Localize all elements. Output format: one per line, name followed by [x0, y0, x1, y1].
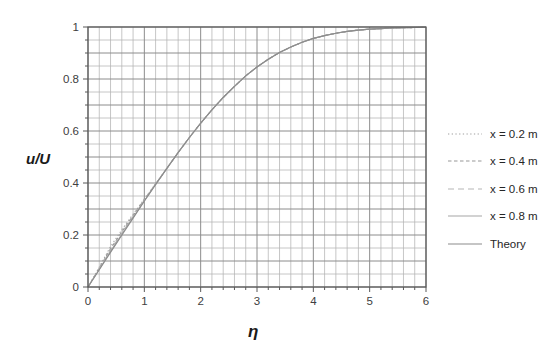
legend-label: x = 0.2 m [490, 128, 538, 140]
y-axis-label: u/U [26, 150, 50, 167]
x-tick-label: 1 [141, 295, 147, 307]
legend-line-sample [448, 129, 482, 139]
legend-line-sample [448, 211, 482, 221]
x-tick-label: 6 [423, 295, 429, 307]
x-axis-label: η [248, 322, 258, 342]
legend-line-sample [448, 156, 482, 166]
legend: x = 0.2 m x = 0.4 m x = 0.6 m x = 0.8 m … [448, 120, 553, 258]
legend-item: Theory [448, 230, 553, 258]
legend-label: Theory [490, 238, 526, 250]
y-tick-label: 0 [73, 281, 79, 293]
legend-label: x = 0.4 m [490, 155, 538, 167]
y-tick-label: 0.8 [63, 73, 79, 85]
legend-item: x = 0.4 m [448, 148, 553, 176]
axis-ticks [83, 27, 426, 292]
x-tick-label: 3 [254, 295, 260, 307]
legend-label: x = 0.6 m [490, 183, 538, 195]
legend-line-sample [448, 184, 482, 194]
legend-line-sample [448, 239, 482, 249]
legend-item: x = 0.6 m [448, 175, 553, 203]
y-tick-label: 1 [73, 21, 79, 33]
legend-item: x = 0.2 m [448, 120, 553, 148]
x-tick-label: 4 [310, 295, 317, 307]
y-tick-label: 0.2 [63, 229, 79, 241]
x-tick-label: 0 [85, 295, 91, 307]
x-tick-label: 2 [197, 295, 203, 307]
y-tick-label: 0.6 [63, 125, 79, 137]
legend-label: x = 0.8 m [490, 210, 538, 222]
x-tick-label: 5 [366, 295, 372, 307]
y-tick-label: 0.4 [63, 177, 80, 189]
chart-figure: 012345600.20.40.60.81 u/U η x = 0.2 m x … [0, 0, 559, 354]
legend-item: x = 0.8 m [448, 203, 553, 231]
